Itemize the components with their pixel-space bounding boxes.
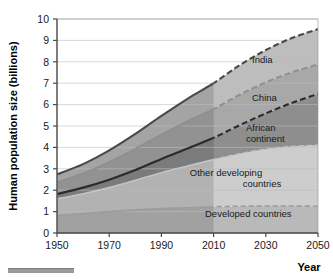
y-tick-label: 5 <box>43 120 49 132</box>
y-tick-label: 9 <box>43 34 49 46</box>
figure-footer-rule <box>8 268 74 273</box>
y-tick-label: 10 <box>37 13 49 25</box>
chart-canvas: 012345678910 195019701990201020302050 Ye… <box>0 0 333 279</box>
y-tick-label: 8 <box>43 56 49 68</box>
y-tick-label: 3 <box>43 163 49 175</box>
y-tick-label: 6 <box>43 98 49 110</box>
x-axis-tick-labels: 195019701990201020302050 <box>45 239 330 251</box>
x-tick-label: 2010 <box>202 239 226 251</box>
y-axis-tick-labels: 012345678910 <box>37 13 49 239</box>
series-label-african-continent-line1: African <box>246 122 276 133</box>
x-tick-label: 2050 <box>306 239 330 251</box>
y-tick-label: 0 <box>43 227 49 239</box>
x-tick-label: 1990 <box>150 239 174 251</box>
series-label-china: China <box>252 92 278 103</box>
y-tick-label: 4 <box>43 141 49 153</box>
x-tick-label: 1970 <box>98 239 122 251</box>
series-label-other-developing-line1: Other developing <box>190 167 262 178</box>
population-chart-figure: 012345678910 195019701990201020302050 Ye… <box>0 0 333 279</box>
series-label-african-continent-line2: continent <box>246 133 285 144</box>
series-label-india: India <box>252 54 273 65</box>
series-label-other-developing-line2: countries <box>243 178 282 189</box>
series-label-developed-countries: Developed countries <box>205 208 292 219</box>
y-axis-title: Human population size (billions) <box>7 41 19 211</box>
x-axis-title: Year <box>297 261 321 273</box>
y-tick-label: 2 <box>43 184 49 196</box>
y-tick-label: 7 <box>43 77 49 89</box>
x-tick-label: 1950 <box>45 239 69 251</box>
x-tick-label: 2030 <box>254 239 278 251</box>
y-tick-label: 1 <box>43 205 49 217</box>
